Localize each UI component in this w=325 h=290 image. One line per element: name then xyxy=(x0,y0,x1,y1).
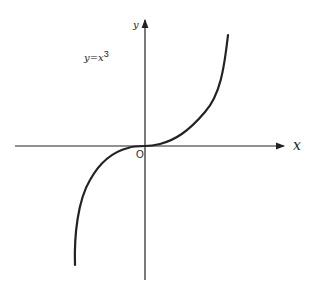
x-axis-label: x xyxy=(293,137,301,153)
y-axis-label: y xyxy=(133,19,139,30)
equation-label: y=x3 xyxy=(84,49,109,63)
cubic-graph xyxy=(0,0,325,290)
origin-label: O xyxy=(136,149,144,160)
cubic-curve xyxy=(75,35,228,265)
equation-text: y=x xyxy=(84,52,104,63)
equation-exponent: 3 xyxy=(104,49,109,59)
